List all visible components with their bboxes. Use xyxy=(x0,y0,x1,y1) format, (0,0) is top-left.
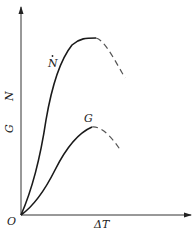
nucleation-growth-chart: O ΔT G N N G xyxy=(0,0,195,240)
curve-g-solid xyxy=(21,127,92,215)
curve-n-solid xyxy=(21,38,96,215)
curve-n-label-dot xyxy=(52,55,54,57)
curve-g-dashed xyxy=(92,127,121,151)
origin-label: O xyxy=(7,215,16,228)
y-axis-label-n: N xyxy=(3,91,16,102)
y-axis-label-g: G xyxy=(3,124,16,133)
curve-n-dashed xyxy=(96,38,125,78)
x-axis-label: ΔT xyxy=(93,218,111,231)
curve-n-label: N xyxy=(47,57,58,70)
curve-g-label: G xyxy=(84,112,93,125)
